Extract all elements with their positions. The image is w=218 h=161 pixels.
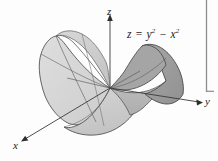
saddle-surface-figure: z y x z = y2 − x2 (0, 0, 218, 161)
equation-minus: − (159, 28, 168, 40)
equation-equals: = (135, 28, 144, 40)
y-axis-label: y (205, 96, 210, 107)
z-axis-label: z (107, 6, 111, 17)
page-border-rule (206, 0, 214, 92)
equation-lhs: z (127, 28, 132, 40)
y-axis-arrowhead (196, 100, 203, 106)
equation-term2-exponent: 2 (176, 27, 180, 35)
saddle-surface (39, 31, 183, 135)
surface-equation-label: z = y2 − x2 (127, 28, 179, 40)
surface-illustration (0, 0, 218, 161)
x-axis-arrowhead (21, 136, 28, 142)
equation-term1-exponent: 2 (152, 27, 156, 35)
x-axis-label: x (13, 140, 18, 151)
